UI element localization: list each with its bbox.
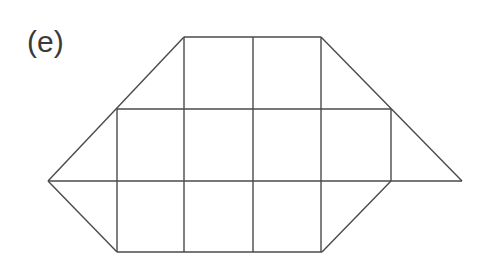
- vertical-lines: [117, 37, 391, 252]
- diagonal-lines: [48, 37, 462, 252]
- diagonal-line: [48, 181, 117, 252]
- grid-polygon-diagram: [0, 0, 489, 267]
- diagonal-line: [322, 181, 391, 252]
- horizontal-lines: [48, 37, 462, 252]
